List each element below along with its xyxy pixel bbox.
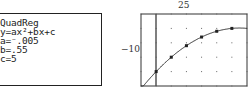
data-points	[155, 27, 234, 73]
graph-frame	[141, 14, 247, 86]
graph-plot	[0, 0, 251, 93]
regression-curve	[141, 28, 247, 86]
